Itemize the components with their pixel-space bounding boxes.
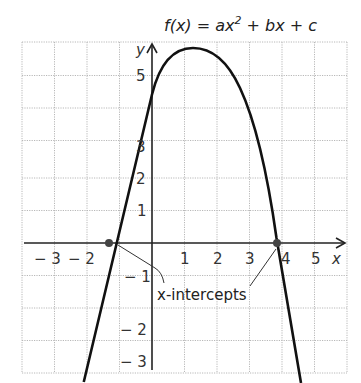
y-tick-label: − 1 (124, 268, 151, 286)
x-tick-label: 5 (311, 250, 321, 268)
x-tick-label: 3 (245, 250, 255, 268)
x-tick-label: 2 (213, 250, 223, 268)
x-tick-label: − 3 (34, 250, 61, 268)
x-axis-label: x (331, 250, 341, 268)
x-intercept-point-left (105, 239, 113, 247)
y-tick-label: − 2 (120, 321, 147, 339)
grid (22, 42, 347, 373)
y-tick-label: 1 (137, 202, 147, 220)
x-intercept-point-right (273, 239, 281, 247)
y-tick-label: 2 (136, 170, 146, 188)
x-intercepts-annotation: x-intercepts (157, 286, 247, 304)
y-tick-label: 3 (136, 138, 146, 156)
x-tick-label: − 2 (68, 250, 95, 268)
y-axis-label: y (135, 41, 146, 59)
y-tick-label: 5 (136, 67, 146, 85)
chart-title: f(x) = ax2 + bx + c (164, 14, 317, 35)
x-tick-label: 4 (281, 250, 291, 268)
x-tick-label: 1 (180, 250, 190, 268)
parabola-chart: f(x) = ax2 + bx + c y x − 3 − 2 1 2 3 4 … (0, 0, 361, 383)
y-tick-label: − 3 (120, 353, 147, 371)
parabola-curve (84, 48, 301, 383)
